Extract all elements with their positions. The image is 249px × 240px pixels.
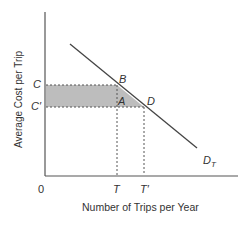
x-axis-label: Number of Trips per Year — [82, 201, 199, 213]
tick-c-prime: C′ — [31, 100, 41, 112]
tick-t-prime: T′ — [140, 183, 149, 195]
tick-c: C — [33, 78, 41, 90]
shaded-area — [46, 85, 117, 107]
tick-t: T — [113, 183, 120, 195]
curve-label: DT — [203, 154, 216, 169]
origin-label: 0 — [38, 183, 44, 195]
y-axis-label: Average Cost per Trip — [13, 40, 24, 160]
point-d: D — [147, 95, 155, 107]
point-a: A — [118, 95, 125, 107]
point-b: B — [119, 73, 126, 85]
